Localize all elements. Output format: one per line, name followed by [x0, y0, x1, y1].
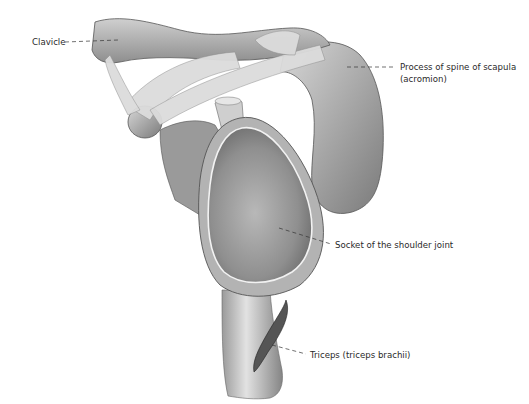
label-clavicle: Clavicle [32, 37, 66, 48]
shoulder-illustration [0, 0, 529, 404]
label-socket: Socket of the shoulder joint [335, 240, 453, 251]
label-acromion-line2: (acromion) [400, 74, 447, 85]
glenoid-socket [208, 128, 312, 283]
shoulder-diagram: Clavicle Process of spine of scapula (ac… [0, 0, 529, 404]
label-triceps: Triceps (triceps brachii) [310, 350, 410, 361]
label-acromion-line1: Process of spine of scapula [400, 62, 516, 73]
